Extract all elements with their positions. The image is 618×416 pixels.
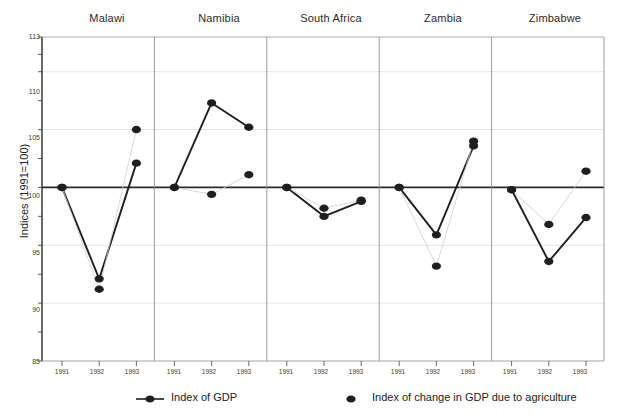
plot-area	[0, 0, 618, 416]
legend-label-agriculture: Index of change in GDP due to agricultur…	[372, 391, 577, 403]
chart-container: Malawi Namibia South Africa Zambia Zimba…	[0, 0, 618, 416]
axis-lines	[38, 37, 604, 361]
legend-label-gdp: Index of GDP	[171, 391, 237, 403]
legend-marker-agriculture-icon	[336, 392, 366, 406]
legend-marker-gdp-icon	[135, 392, 165, 406]
x-axis-ticks	[62, 361, 586, 366]
panel-separators	[42, 37, 604, 361]
series-agriculture-markers	[57, 126, 590, 293]
gridlines	[42, 72, 604, 303]
